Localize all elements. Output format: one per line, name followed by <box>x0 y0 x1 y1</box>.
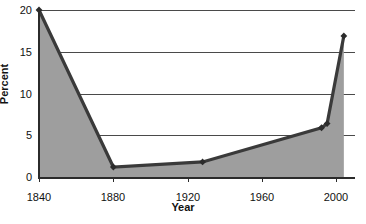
x-tick-mark <box>113 177 114 182</box>
x-axis-line <box>39 177 355 179</box>
y-tick-label: 5 <box>0 130 32 141</box>
x-tick-mark <box>39 177 40 182</box>
x-axis-title: Year <box>0 201 366 213</box>
x-tick-mark <box>336 177 337 182</box>
plot-area: 18401880192019602000 <box>39 10 355 177</box>
x-tick-mark <box>262 177 263 182</box>
area-fill <box>39 10 344 177</box>
y-tick-label: 0 <box>0 172 32 183</box>
x-tick-mark <box>188 177 189 182</box>
chart-figure: 05101520 Percent 18401880192019602000 Ye… <box>0 0 366 224</box>
y-axis-title: Percent <box>0 44 10 124</box>
area-series <box>39 10 355 177</box>
y-tick-label: 20 <box>0 5 32 16</box>
y-axis-line <box>38 10 40 179</box>
